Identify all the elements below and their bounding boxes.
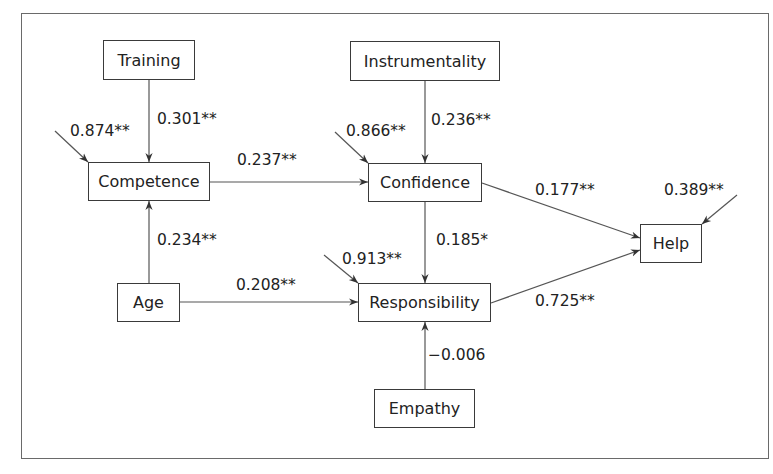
coef-competence-confidence: 0.237**: [237, 153, 297, 169]
node-age: Age: [117, 283, 180, 322]
residual-confidence: 0.866**: [346, 124, 406, 140]
residual-competence: 0.874**: [70, 124, 130, 140]
residual-help: 0.389**: [664, 183, 724, 199]
node-competence: Competence: [88, 162, 210, 201]
node-help: Help: [640, 224, 702, 263]
node-empathy: Empathy: [374, 389, 475, 428]
node-empathy-label: Empathy: [389, 399, 461, 418]
node-responsibility-label: Responsibility: [369, 293, 480, 312]
node-instrumentality-label: Instrumentality: [364, 52, 486, 71]
coef-instrumentality-confidence: 0.236**: [431, 113, 491, 129]
node-responsibility: Responsibility: [358, 283, 491, 322]
coef-age-responsibility: 0.208**: [236, 278, 296, 294]
node-help-label: Help: [653, 234, 689, 253]
node-competence-label: Competence: [98, 172, 199, 191]
node-training: Training: [103, 40, 195, 80]
residual-arrow-help: [702, 195, 737, 224]
node-training-label: Training: [117, 51, 180, 70]
node-confidence: Confidence: [368, 163, 482, 202]
coef-training-competence: 0.301**: [157, 112, 217, 128]
coef-confidence-help: 0.177**: [535, 183, 595, 199]
node-age-label: Age: [133, 293, 164, 312]
node-instrumentality: Instrumentality: [350, 41, 500, 81]
coef-empathy-responsibility: −0.006: [428, 348, 485, 364]
coef-age-competence: 0.234**: [157, 233, 217, 249]
node-confidence-label: Confidence: [380, 173, 470, 192]
coef-confidence-responsibility: 0.185*: [436, 233, 488, 249]
residual-responsibility: 0.913**: [342, 252, 402, 268]
coef-responsibility-help: 0.725**: [535, 294, 595, 310]
